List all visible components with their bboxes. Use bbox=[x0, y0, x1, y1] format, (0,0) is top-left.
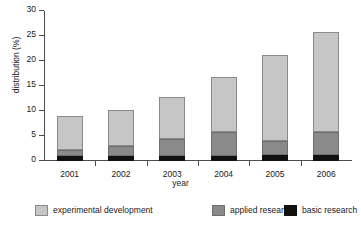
legend-swatch-icon bbox=[212, 205, 225, 216]
y-axis-tick-label: 20 bbox=[27, 54, 36, 64]
bar-segment-basic-research bbox=[313, 155, 339, 161]
plot-area: 051015202530200120022003200420052006 bbox=[44, 11, 352, 161]
y-axis-tick-label: 30 bbox=[27, 4, 36, 14]
y-axis-label: distribution (%) bbox=[11, 5, 21, 125]
x-axis-tick bbox=[147, 161, 148, 166]
bar-segment-applied-research bbox=[108, 146, 134, 156]
legend-swatch-icon bbox=[284, 205, 297, 216]
bar-segment-experimental-development bbox=[313, 32, 339, 132]
x-axis-tick bbox=[301, 161, 302, 166]
y-axis-tick-label: 25 bbox=[27, 29, 36, 39]
bar-2005 bbox=[262, 55, 288, 161]
y-axis-tick: 5 bbox=[39, 135, 44, 136]
chart-legend: experimental developmentapplied research… bbox=[0, 203, 361, 219]
bar-segment-applied-research bbox=[159, 139, 185, 157]
y-axis-tick-label: 0 bbox=[31, 154, 36, 164]
legend-swatch-icon bbox=[35, 205, 48, 216]
y-axis-tick: 0 bbox=[39, 160, 44, 161]
x-axis-tick bbox=[249, 161, 250, 166]
bar-segment-basic-research bbox=[108, 156, 134, 161]
y-axis-tick-label: 5 bbox=[31, 129, 36, 139]
y-axis-tick-label: 10 bbox=[27, 104, 36, 114]
bar-segment-basic-research bbox=[159, 156, 185, 161]
bar-segment-applied-research bbox=[57, 150, 83, 157]
legend-label: basic research bbox=[302, 205, 357, 215]
y-axis-tick: 15 bbox=[39, 85, 44, 86]
bar-segment-experimental-development bbox=[262, 55, 288, 141]
x-axis-tick bbox=[198, 161, 199, 166]
y-axis-tick: 20 bbox=[39, 60, 44, 61]
y-axis-tick: 30 bbox=[39, 10, 44, 11]
bar-2006 bbox=[313, 32, 339, 161]
x-axis-label: year bbox=[0, 178, 361, 188]
legend-label: experimental development bbox=[53, 205, 153, 215]
bar-2001 bbox=[57, 116, 83, 161]
y-axis-tick: 10 bbox=[39, 110, 44, 111]
legend-item-applied-research[interactable]: applied research bbox=[212, 203, 293, 217]
y-axis-tick-label: 15 bbox=[27, 79, 36, 89]
bar-segment-experimental-development bbox=[108, 110, 134, 146]
chart-screenshot: distribution (%) 05101520253020012002200… bbox=[0, 0, 361, 227]
x-axis-tick bbox=[95, 161, 96, 166]
legend-item-basic-research[interactable]: basic research bbox=[284, 203, 357, 217]
bar-segment-applied-research bbox=[211, 132, 237, 156]
bar-segment-experimental-development bbox=[211, 77, 237, 132]
bar-segment-basic-research bbox=[211, 156, 237, 161]
bar-segment-applied-research bbox=[313, 132, 339, 155]
y-axis-tick: 25 bbox=[39, 35, 44, 36]
bar-segment-basic-research bbox=[57, 156, 83, 161]
bar-segment-basic-research bbox=[262, 155, 288, 161]
bar-segment-experimental-development bbox=[159, 97, 185, 139]
bar-2002 bbox=[108, 110, 134, 161]
bar-2003 bbox=[159, 97, 185, 161]
bar-segment-applied-research bbox=[262, 141, 288, 156]
bar-2004 bbox=[211, 77, 237, 161]
legend-item-experimental-development[interactable]: experimental development bbox=[35, 203, 153, 217]
y-axis-line bbox=[44, 11, 45, 161]
bar-segment-experimental-development bbox=[57, 116, 83, 150]
